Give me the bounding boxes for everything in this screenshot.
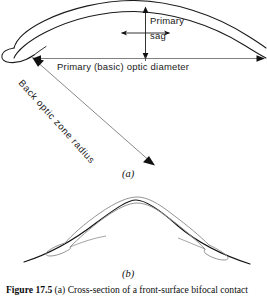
lens-flange-right xyxy=(204,245,228,260)
figure-caption-number: Figure 17.5 xyxy=(6,284,52,295)
lens-flange-left xyxy=(46,243,71,256)
primary-sag-label-line2: sag xyxy=(150,31,166,42)
lens-front-surface-b xyxy=(65,197,209,245)
panel-a-letter: (a) xyxy=(122,168,134,179)
optic-diameter-label: Primary (basic) optic diameter xyxy=(57,62,189,73)
figure-caption: Figure 17.5 (a) Cross-section of a front… xyxy=(6,284,264,296)
figure-caption-text: (a) Cross-section of a front-surface bif… xyxy=(52,284,248,295)
panel-b-letter: (b) xyxy=(122,268,134,279)
primary-sag-label-line1: Primary xyxy=(150,16,184,27)
lens-back-surface-b xyxy=(70,203,205,249)
lens-edge-lift-right xyxy=(178,238,205,249)
